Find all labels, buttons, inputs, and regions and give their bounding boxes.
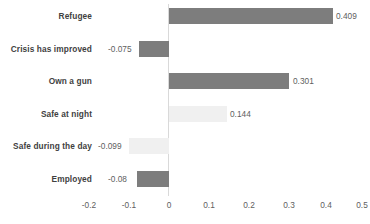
category-label: Crisis has improved xyxy=(11,44,92,54)
value-label: -0.099 xyxy=(98,141,122,151)
plot-area: Refugee 0.409 Crisis has improved -0.075… xyxy=(0,0,370,196)
bar-own-a-gun xyxy=(169,73,289,89)
value-label: 0.144 xyxy=(230,109,251,119)
bar-safe-at-night xyxy=(169,106,227,122)
category-label: Safe at night xyxy=(41,109,92,119)
x-tick: 0.3 xyxy=(283,200,295,210)
x-axis: -0.2 -0.1 0 0.1 0.2 0.3 0.4 0.5 xyxy=(0,196,370,224)
value-label: -0.075 xyxy=(108,44,132,54)
x-tick: 0.2 xyxy=(243,200,255,210)
chart-row: Own a gun 0.301 xyxy=(0,65,370,98)
value-label: -0.08 xyxy=(108,174,127,184)
bar-employed xyxy=(137,171,169,187)
category-label: Safe during the day xyxy=(13,141,92,151)
chart-row: Crisis has improved -0.075 xyxy=(0,33,370,66)
bar-safe-during-the-day xyxy=(129,138,169,154)
x-tick: 0.1 xyxy=(203,200,215,210)
x-tick: 0.4 xyxy=(320,200,332,210)
category-label: Own a gun xyxy=(49,76,92,86)
x-tick: -0.2 xyxy=(82,200,96,210)
bar-crisis-has-improved xyxy=(139,41,169,57)
value-label: 0.409 xyxy=(336,11,357,21)
chart-row: Employed -0.08 xyxy=(0,163,370,196)
bar-chart: Refugee 0.409 Crisis has improved -0.075… xyxy=(0,0,370,224)
value-label: 0.301 xyxy=(293,76,314,86)
x-tick: -0.1 xyxy=(122,200,136,210)
x-tick: 0.5 xyxy=(356,200,368,210)
category-label: Refugee xyxy=(59,11,92,21)
category-label: Employed xyxy=(52,174,92,184)
chart-row: Refugee 0.409 xyxy=(0,0,370,33)
x-tick: 0 xyxy=(167,200,172,210)
bar-refugee xyxy=(169,8,333,24)
chart-row: Safe during the day -0.099 xyxy=(0,130,370,163)
chart-row: Safe at night 0.144 xyxy=(0,98,370,131)
